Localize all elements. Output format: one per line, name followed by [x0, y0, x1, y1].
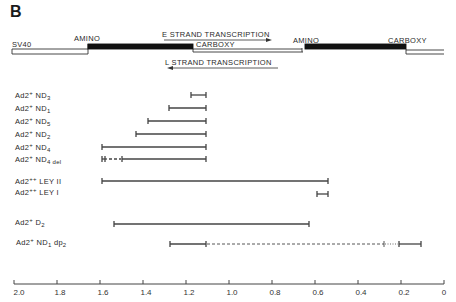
tick-label-1-0: 1.0 — [226, 288, 237, 297]
tick-label-0-8: 0.8 — [269, 288, 280, 297]
l-strand-arrow — [167, 66, 278, 70]
mutant-label-nd4-del: Ad2+ ND4 del — [15, 154, 61, 165]
mutant-label-nd3: Ad2+ ND3 — [15, 90, 51, 101]
tick-label-2-0: 2.0 — [13, 288, 24, 297]
tick-label-1-2: 1.2 — [183, 288, 194, 297]
tick-label-1-4: 1.4 — [140, 288, 151, 297]
tick-label-0-2: 0.2 — [398, 288, 409, 297]
x-axis — [14, 280, 444, 284]
tick-label-1-6: 1.6 — [97, 288, 108, 297]
tick-label-0: 0 — [442, 288, 446, 297]
mutant-bars — [102, 92, 421, 247]
mutant-label-nd5: Ad2+ ND5 — [15, 116, 51, 127]
mutant-label-ley-i: Ad2++ LEY I — [15, 187, 59, 197]
mutant-label-nd1-dp2: Ad2+ ND1 dp2 — [16, 237, 67, 248]
mutant-label-d2: Ad2+ D2 — [15, 217, 45, 228]
genome-map-lines — [12, 44, 444, 54]
mutant-label-ley-ii: Ad2++ LEY II — [15, 176, 61, 186]
e-strand-arrow — [164, 38, 272, 42]
tick-label-1-8: 1.8 — [54, 288, 65, 297]
tick-label-0-6: 0.6 — [312, 288, 323, 297]
mutant-label-nd1: Ad2+ ND1 — [15, 103, 51, 114]
mutant-label-nd2: Ad2+ ND2 — [15, 129, 51, 140]
map-diagram — [0, 0, 456, 302]
mutant-label-nd4: Ad2+ ND4 — [15, 142, 51, 153]
tick-label-0-4: 0.4 — [355, 288, 366, 297]
